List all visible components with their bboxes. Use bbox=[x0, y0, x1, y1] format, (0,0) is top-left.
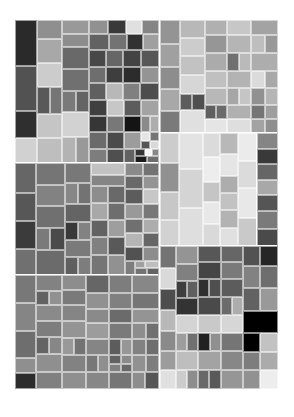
treemap-tile bbox=[238, 188, 257, 218]
treemap-tile bbox=[78, 183, 91, 204]
group-bottom-left bbox=[14, 274, 158, 388]
treemap-tile bbox=[198, 262, 221, 279]
treemap-tile bbox=[50, 87, 62, 114]
treemap-tile bbox=[221, 262, 243, 279]
treemap-tile bbox=[180, 38, 205, 56]
treemap-tile bbox=[146, 323, 159, 339]
treemap-tile bbox=[265, 35, 278, 53]
treemap-tile bbox=[62, 137, 76, 163]
treemap-tile bbox=[89, 34, 109, 50]
treemap-tile bbox=[15, 20, 37, 66]
treemap-tile bbox=[91, 220, 108, 237]
treemap-tile bbox=[125, 247, 143, 261]
treemap-tile bbox=[243, 266, 260, 288]
treemap-tile bbox=[109, 355, 121, 364]
treemap-tile bbox=[108, 20, 126, 34]
treemap-tile bbox=[108, 203, 125, 220]
treemap-tile bbox=[86, 293, 109, 309]
group-top-left bbox=[14, 19, 158, 162]
treemap-tile bbox=[146, 355, 159, 372]
treemap-tile bbox=[37, 39, 62, 63]
treemap-tile bbox=[227, 119, 251, 133]
treemap-tile bbox=[109, 364, 121, 372]
treemap-tile bbox=[257, 195, 278, 211]
treemap-tile bbox=[89, 149, 107, 163]
treemap-tile bbox=[36, 337, 49, 354]
treemap-tile bbox=[109, 339, 121, 355]
group-left-middle bbox=[14, 162, 158, 274]
treemap-tile bbox=[265, 105, 278, 119]
treemap-tile bbox=[62, 69, 89, 91]
treemap-tile bbox=[65, 163, 91, 183]
treemap-tile bbox=[91, 163, 125, 175]
treemap-tile bbox=[124, 132, 141, 149]
treemap-tile bbox=[227, 35, 251, 53]
treemap-tile bbox=[205, 35, 227, 53]
treemap-tile bbox=[109, 34, 127, 50]
treemap-tile bbox=[143, 247, 159, 261]
treemap-tile bbox=[160, 163, 179, 192]
treemap-tile bbox=[62, 338, 74, 355]
treemap-tile bbox=[176, 333, 187, 351]
treemap-tile bbox=[62, 321, 86, 338]
treemap-tile bbox=[124, 116, 141, 132]
treemap-tile bbox=[187, 333, 198, 351]
treemap-tile bbox=[108, 186, 125, 203]
treemap-tile bbox=[37, 138, 62, 163]
treemap-tile bbox=[141, 67, 159, 83]
treemap-tile bbox=[109, 323, 132, 339]
treemap-tile bbox=[257, 164, 278, 180]
treemap-tile bbox=[176, 246, 198, 264]
treemap-tile bbox=[132, 275, 159, 293]
treemap-tile bbox=[205, 71, 227, 88]
treemap-tile bbox=[89, 83, 106, 100]
treemap-tile bbox=[106, 50, 123, 67]
treemap-tile bbox=[160, 20, 180, 44]
treemap-tile bbox=[160, 192, 179, 220]
treemap-tile bbox=[86, 275, 109, 293]
treemap-tile bbox=[141, 50, 159, 67]
treemap-tile bbox=[91, 175, 125, 186]
treemap-tile bbox=[36, 163, 65, 185]
treemap-tile bbox=[141, 141, 150, 149]
treemap-tile bbox=[62, 355, 86, 372]
treemap-tile bbox=[203, 157, 220, 182]
treemap-tile bbox=[89, 100, 107, 116]
treemap-tile bbox=[37, 114, 62, 138]
treemap-tile bbox=[216, 105, 227, 119]
treemap-tile bbox=[62, 275, 86, 290]
treemap-tile bbox=[227, 105, 251, 119]
treemap-tile bbox=[160, 351, 176, 370]
treemap-tile bbox=[243, 352, 260, 370]
treemap-tile bbox=[243, 288, 260, 311]
treemap-tile bbox=[176, 298, 198, 315]
treemap-tile bbox=[257, 229, 278, 246]
treemap-tile bbox=[89, 67, 106, 83]
treemap-tile bbox=[89, 20, 108, 34]
treemap-tile bbox=[132, 372, 145, 389]
treemap-tile bbox=[227, 53, 239, 71]
treemap-tile bbox=[121, 355, 132, 364]
treemap-tile bbox=[109, 293, 132, 309]
treemap-tile bbox=[176, 370, 187, 389]
treemap-tile bbox=[108, 220, 125, 237]
treemap-tile bbox=[62, 305, 86, 321]
treemap-tile bbox=[198, 333, 210, 351]
treemap-tile bbox=[257, 211, 278, 229]
treemap-tile bbox=[260, 246, 278, 266]
treemap-tile bbox=[176, 351, 198, 370]
treemap-tile bbox=[78, 222, 91, 240]
treemap-tile bbox=[124, 149, 135, 163]
treemap-tile bbox=[142, 20, 159, 34]
treemap-tile bbox=[78, 257, 91, 275]
treemap-tile bbox=[239, 53, 251, 71]
treemap-tile bbox=[91, 237, 108, 255]
treemap-tile bbox=[98, 355, 109, 372]
treemap-tile bbox=[15, 66, 37, 111]
treemap-tile bbox=[65, 183, 78, 204]
treemap-tile bbox=[179, 133, 203, 169]
treemap-tile bbox=[143, 233, 159, 247]
treemap-tile bbox=[150, 116, 159, 132]
treemap-tile bbox=[180, 75, 205, 94]
treemap-tile bbox=[121, 364, 132, 372]
